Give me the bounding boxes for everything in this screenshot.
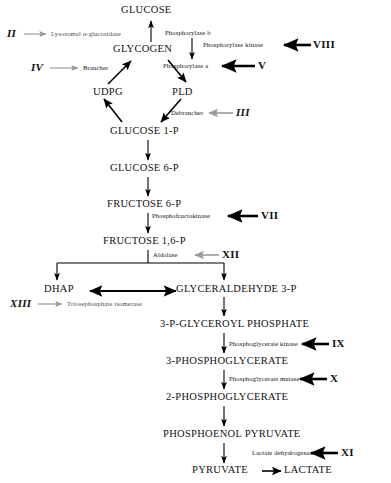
enzyme-phosphorylase-b: Phosphorylase b: [165, 29, 211, 36]
enzyme-phosphoglycerate-kinase: Phosphoglycerate kinase: [229, 340, 298, 347]
enzyme-lysosomal-alpha-glucosidase: Lysosomal α-glucosidase: [51, 30, 121, 37]
node-fructose-6-p: FRUCTOSE 6-P: [107, 198, 181, 209]
node-glycogen: GLYCOGEN: [113, 43, 172, 54]
node-2-phosphoglycerate: 2-PHOSPHOGLYCERATE: [166, 391, 288, 402]
numeral-III: III: [236, 106, 250, 118]
enzyme-phosphorylase-a: Phosphorylase a: [163, 62, 208, 69]
numeral-IX: IX: [332, 337, 345, 349]
node-fructose-1-6-p: FRUCTOSE 1,6-P: [103, 235, 186, 246]
node-glucose: GLUCOSE: [121, 4, 172, 15]
enzyme-phosphofructokinase: Phosphofructokinase: [152, 212, 210, 219]
node-phosphoenol-pyruvate: PHOSPHOENOL PYRUVATE: [163, 428, 301, 439]
enzyme-phosphoglycerate-mutase: Phosphoglycerate mutase: [229, 375, 300, 382]
numeral-V: V: [258, 59, 266, 71]
enzyme-lactate-dehydrogenase: Lactate dehydrogenase: [252, 449, 316, 456]
numeral-VII: VII: [261, 209, 278, 221]
node-3-phosphoglycerate: 3-PHOSPHOGLYCERATE: [166, 355, 288, 366]
enzyme-triosephosphate-isomerase: Triosephosphate isomerase: [67, 300, 142, 307]
node-glyceraldehyde-3-p: GLYCERALDEHYDE 3-P: [176, 283, 297, 294]
node-lactate: LACTATE: [284, 464, 332, 475]
node-pyruvate: PYRUVATE: [192, 464, 248, 475]
node-glucose-1-p: GLUCOSE 1-P: [110, 125, 179, 136]
numeral-VIII: VIII: [313, 38, 335, 50]
numeral-XII: XII: [222, 248, 239, 260]
numeral-XI: XI: [341, 446, 354, 458]
enzyme-debrancher: Debrancher: [171, 109, 203, 116]
node-glucose-6-p: GLUCOSE 6-P: [110, 162, 179, 173]
node-dhap: DHAP: [44, 283, 74, 294]
numeral-II: II: [7, 27, 16, 39]
node-pld: PLD: [172, 86, 193, 97]
numeral-IV: IV: [31, 61, 43, 73]
arrow-glucose1p-to-udpg: [104, 99, 122, 122]
numeral-XIII: XIII: [10, 297, 31, 309]
enzyme-phosphorylase-kinase: Phosphorylase kinase: [203, 41, 263, 48]
node-3-p-glyceroyl-phosphate: 3-P-GLYCEROYL PHOSPHATE: [160, 318, 309, 329]
numeral-X: X: [330, 372, 338, 384]
enzyme-aldolase: Aldolase: [153, 251, 178, 258]
node-udpg: UDPG: [93, 86, 123, 97]
arrow-udpg-to-glycogen: [108, 61, 131, 84]
pathway-arrow-layer: [0, 0, 391, 483]
enzyme-brancher: Brancher: [83, 64, 108, 71]
